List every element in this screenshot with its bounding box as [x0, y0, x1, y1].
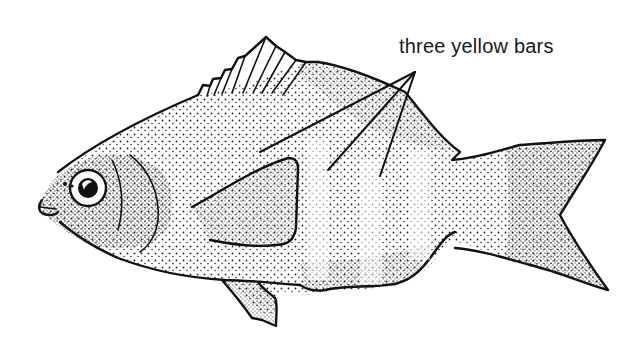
nostril — [63, 182, 67, 186]
annotation-label: three yellow bars — [399, 35, 554, 58]
eye-icon — [70, 170, 106, 206]
nostril-2 — [70, 184, 73, 187]
head — [40, 155, 172, 249]
